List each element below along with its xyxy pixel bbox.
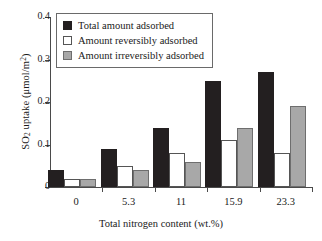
legend-swatch-irreversible-icon	[63, 51, 72, 60]
legend-label: Amount reversibly adsorbed	[78, 35, 198, 46]
y-axis-tick-label: 0	[8, 180, 50, 191]
bar-1-2	[169, 153, 185, 187]
bar-0-0	[48, 170, 64, 187]
x-axis-tick	[260, 187, 261, 192]
x-axis-tick-label: 5.3	[99, 196, 159, 207]
bar-2-2	[185, 162, 201, 188]
legend-item: Total amount adsorbed	[63, 18, 204, 33]
bar-2-3	[237, 128, 253, 188]
x-axis-tick	[102, 187, 103, 192]
legend-item: Amount reversibly adsorbed	[63, 33, 204, 48]
legend-label: Total amount adsorbed	[78, 20, 174, 31]
y-axis-title-sub: 2	[23, 132, 32, 136]
bar-2-0	[80, 179, 96, 188]
legend-swatch-total-icon	[63, 21, 72, 30]
bar-chart: SO2 uptake (μmol/m2) 00.10.20.30.4 05.31…	[0, 0, 322, 241]
bar-0-4	[258, 72, 274, 187]
bar-0-3	[205, 81, 221, 187]
bar-1-4	[274, 153, 290, 187]
chart-legend: Total amount adsorbed Amount reversibly …	[56, 13, 213, 68]
x-axis-line	[50, 187, 312, 188]
legend-label: Amount irreversibly adsorbed	[78, 50, 204, 61]
bar-0-1	[101, 149, 117, 187]
bar-2-4	[290, 106, 306, 187]
bar-1-3	[221, 140, 237, 187]
x-axis-tick-label: 11	[151, 196, 211, 207]
bar-0-2	[153, 128, 169, 188]
x-axis-tick-label: 23.3	[256, 196, 316, 207]
bar-1-1	[117, 166, 133, 187]
bar-1-0	[64, 179, 80, 188]
x-axis-title: Total nitrogen content (wt.%)	[0, 218, 322, 229]
legend-swatch-reversible-icon	[63, 36, 72, 45]
x-axis-tick-label: 0	[46, 196, 106, 207]
y-axis-tick-label: 0.4	[8, 10, 50, 21]
x-axis-tick	[312, 187, 313, 192]
y-axis-tick-label: 0.3	[8, 53, 50, 64]
x-axis-tick-label: 15.9	[203, 196, 263, 207]
x-axis-tick	[207, 187, 208, 192]
x-axis-tick	[155, 187, 156, 192]
y-axis-tick-label: 0.1	[8, 138, 50, 149]
y-axis-tick-label: 0.2	[8, 95, 50, 106]
bar-2-1	[133, 170, 149, 187]
legend-item: Amount irreversibly adsorbed	[63, 48, 204, 63]
